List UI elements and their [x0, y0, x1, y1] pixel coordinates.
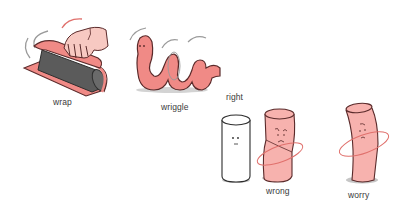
word-label-wriggle: wriggle [161, 102, 189, 112]
word-label-wrong: wrong [266, 186, 290, 196]
word-label-worry: worry [348, 190, 369, 200]
wriggle-figure: wriggle [120, 20, 220, 120]
twisted-cylinder-illustration [252, 104, 312, 186]
wrong-figure: wrong [252, 104, 312, 186]
word-label-wrap: wrap [53, 97, 72, 107]
worry-figure [334, 98, 400, 186]
word-label-right: right [226, 92, 243, 102]
rolling-mat-illustration [0, 0, 130, 110]
bent-cylinder-illustration [334, 98, 400, 186]
wrap-figure: wrap [0, 0, 130, 110]
